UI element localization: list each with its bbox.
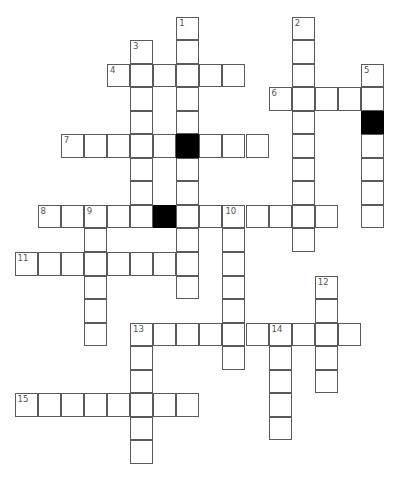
grid-cell[interactable]: [361, 158, 384, 182]
grid-cell[interactable]: [222, 299, 245, 323]
grid-cell[interactable]: [292, 158, 315, 182]
grid-cell[interactable]: 3: [130, 40, 153, 64]
grid-cell[interactable]: 1: [176, 17, 199, 41]
grid-cell[interactable]: [84, 393, 107, 417]
grid-cell[interactable]: [130, 393, 153, 417]
grid-cell[interactable]: 9: [84, 205, 107, 229]
grid-cell[interactable]: [153, 252, 176, 276]
grid-cell[interactable]: [61, 252, 84, 276]
grid-cell[interactable]: [222, 323, 245, 347]
grid-cell[interactable]: [176, 40, 199, 64]
grid-cell[interactable]: [199, 64, 222, 88]
grid-cell[interactable]: [338, 323, 361, 347]
grid-cell[interactable]: [84, 134, 107, 158]
grid-cell[interactable]: [130, 417, 153, 441]
grid-cell[interactable]: [292, 181, 315, 205]
grid-cell[interactable]: [130, 64, 153, 88]
grid-cell[interactable]: 5: [361, 64, 384, 88]
grid-cell[interactable]: 11: [15, 252, 38, 276]
grid-cell[interactable]: [269, 370, 292, 394]
grid-cell[interactable]: [269, 205, 292, 229]
grid-cell[interactable]: [292, 228, 315, 252]
grid-cell[interactable]: [292, 87, 315, 111]
grid-cell[interactable]: [269, 346, 292, 370]
grid-cell[interactable]: [107, 134, 130, 158]
grid-cell[interactable]: [199, 323, 222, 347]
grid-cell[interactable]: [130, 134, 153, 158]
grid-cell[interactable]: [130, 158, 153, 182]
grid-cell[interactable]: [361, 205, 384, 229]
grid-cell[interactable]: [130, 346, 153, 370]
grid-cell[interactable]: 12: [315, 276, 338, 300]
grid-cell[interactable]: [176, 158, 199, 182]
grid-cell[interactable]: [292, 134, 315, 158]
grid-cell[interactable]: [153, 323, 176, 347]
grid-cell[interactable]: [292, 205, 315, 229]
grid-cell[interactable]: [130, 252, 153, 276]
grid-cell[interactable]: [84, 299, 107, 323]
grid-cell[interactable]: [176, 205, 199, 229]
grid-cell[interactable]: [269, 417, 292, 441]
grid-cell[interactable]: [176, 181, 199, 205]
grid-cell[interactable]: [199, 134, 222, 158]
grid-cell[interactable]: [269, 393, 292, 417]
grid-cell[interactable]: [176, 228, 199, 252]
grid-cell[interactable]: [176, 87, 199, 111]
grid-cell[interactable]: [130, 181, 153, 205]
grid-cell[interactable]: [130, 440, 153, 464]
grid-cell[interactable]: [222, 228, 245, 252]
grid-cell[interactable]: 8: [38, 205, 61, 229]
grid-cell[interactable]: 14: [269, 323, 292, 347]
grid-cell[interactable]: [315, 87, 338, 111]
grid-cell[interactable]: [84, 252, 107, 276]
grid-cell[interactable]: [130, 87, 153, 111]
grid-cell[interactable]: [130, 111, 153, 135]
grid-cell[interactable]: [153, 134, 176, 158]
grid-cell[interactable]: [84, 228, 107, 252]
grid-cell[interactable]: [130, 205, 153, 229]
grid-cell[interactable]: 6: [269, 87, 292, 111]
grid-cell[interactable]: [222, 252, 245, 276]
grid-cell[interactable]: [38, 393, 61, 417]
grid-cell[interactable]: [315, 299, 338, 323]
grid-cell[interactable]: [292, 323, 315, 347]
grid-cell[interactable]: 7: [61, 134, 84, 158]
grid-cell[interactable]: [107, 393, 130, 417]
grid-cell[interactable]: [315, 346, 338, 370]
grid-cell[interactable]: [222, 276, 245, 300]
grid-cell[interactable]: [292, 64, 315, 88]
grid-cell[interactable]: [315, 205, 338, 229]
grid-cell[interactable]: [61, 205, 84, 229]
grid-cell[interactable]: [292, 111, 315, 135]
grid-cell[interactable]: [176, 323, 199, 347]
grid-cell[interactable]: [176, 111, 199, 135]
grid-cell[interactable]: [338, 87, 361, 111]
grid-cell[interactable]: [153, 64, 176, 88]
grid-cell[interactable]: [246, 323, 269, 347]
grid-cell[interactable]: [361, 181, 384, 205]
grid-cell[interactable]: [107, 205, 130, 229]
grid-cell[interactable]: [361, 87, 384, 111]
grid-cell[interactable]: [246, 205, 269, 229]
grid-cell[interactable]: [176, 64, 199, 88]
grid-cell[interactable]: [84, 323, 107, 347]
grid-cell[interactable]: [315, 370, 338, 394]
grid-cell[interactable]: [199, 205, 222, 229]
grid-cell[interactable]: [292, 40, 315, 64]
grid-cell[interactable]: [38, 252, 61, 276]
grid-cell[interactable]: [176, 393, 199, 417]
grid-cell[interactable]: [361, 134, 384, 158]
grid-cell[interactable]: [61, 393, 84, 417]
grid-cell[interactable]: [84, 276, 107, 300]
grid-cell[interactable]: [315, 323, 338, 347]
grid-cell[interactable]: 10: [222, 205, 245, 229]
grid-cell[interactable]: [222, 64, 245, 88]
grid-cell[interactable]: [246, 134, 269, 158]
grid-cell[interactable]: [176, 252, 199, 276]
grid-cell[interactable]: [222, 134, 245, 158]
grid-cell[interactable]: 13: [130, 323, 153, 347]
grid-cell[interactable]: 15: [15, 393, 38, 417]
grid-cell[interactable]: 4: [107, 64, 130, 88]
grid-cell[interactable]: [222, 346, 245, 370]
grid-cell[interactable]: [107, 252, 130, 276]
